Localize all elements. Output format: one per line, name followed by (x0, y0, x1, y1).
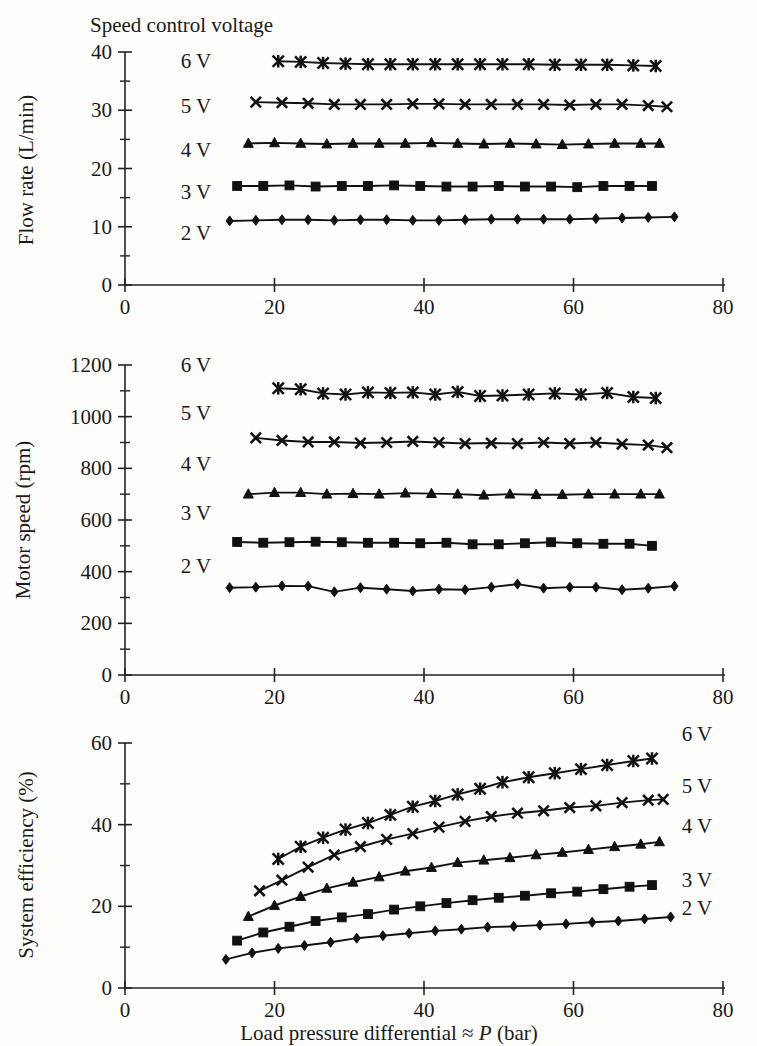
series-line (278, 759, 652, 859)
data-point-star (452, 788, 463, 801)
data-point-square (599, 885, 608, 894)
x-tick-label: 20 (264, 295, 285, 319)
y-tick-label: 30 (91, 98, 112, 122)
data-point-square (337, 913, 346, 922)
data-point-square (311, 537, 320, 546)
data-point-diamond (562, 919, 569, 929)
data-point-star (430, 795, 441, 808)
series-label-6-v: 6 V (181, 353, 212, 377)
data-point-diamond (488, 582, 495, 592)
data-point-square (573, 887, 582, 896)
series-line (278, 61, 655, 66)
data-point-diamond (409, 215, 416, 225)
series-3-v (233, 181, 657, 192)
data-point-square (494, 182, 503, 191)
system-efficiency-chart: 02040608002040606 V5 V4 V3 V2 VSystem ef… (0, 705, 757, 1046)
data-point-diamond (383, 215, 390, 225)
data-point-diamond (618, 585, 625, 595)
data-point-square (468, 182, 477, 191)
data-point-x (277, 875, 287, 885)
y-tick-label: 20 (91, 894, 112, 918)
y-tick-label: 0 (102, 273, 113, 297)
data-point-square (311, 917, 320, 926)
series-3-v (233, 881, 657, 945)
data-point-square (337, 182, 346, 191)
y-tick-label: 800 (81, 456, 113, 480)
data-point-diamond (405, 928, 412, 938)
y-tick-label: 20 (91, 157, 112, 181)
data-point-diamond (536, 920, 543, 930)
y-tick-label: 60 (91, 731, 112, 755)
data-point-diamond (301, 941, 308, 951)
data-point-diamond (566, 214, 573, 224)
panel-system-efficiency: 02040608002040606 V5 V4 V3 V2 VSystem ef… (0, 705, 757, 1046)
data-point-square (442, 899, 451, 908)
data-point-diamond (252, 582, 259, 592)
y-tick-label: 40 (91, 40, 112, 64)
data-point-diamond (488, 214, 495, 224)
motor-speed-chart: 0204060800200400600800100012006 V5 V4 V3… (0, 320, 757, 705)
data-point-square (494, 893, 503, 902)
data-point-square (416, 182, 425, 191)
flow-rate-chart: 0204060800102030406 V5 V4 V3 V2 VFlow ra… (0, 0, 757, 320)
data-point-square (625, 539, 634, 548)
series-label-5-v: 5 V (181, 401, 212, 425)
data-point-diamond (331, 215, 338, 225)
data-point-square (442, 538, 451, 547)
data-point-x (355, 842, 365, 852)
panel-motor-speed: 0204060800200400600800100012006 V5 V4 V3… (0, 320, 757, 705)
data-point-square (468, 896, 477, 905)
data-point-diamond (540, 583, 547, 593)
data-point-diamond (615, 916, 622, 926)
data-point-diamond (353, 933, 360, 943)
data-point-square (521, 182, 530, 191)
data-point-diamond (435, 215, 442, 225)
data-point-diamond (226, 583, 233, 593)
data-point-square (599, 539, 608, 548)
data-point-x (303, 862, 313, 872)
y-tick-label: 10 (91, 215, 112, 239)
series-3-v (233, 537, 657, 550)
data-point-square (573, 539, 582, 548)
series-line (230, 217, 675, 221)
data-point-diamond (278, 581, 285, 591)
series-line (256, 102, 667, 107)
x-tick-label: 60 (563, 998, 584, 1022)
data-point-diamond (645, 212, 652, 222)
data-point-diamond (305, 215, 312, 225)
series-label-2-v: 2 V (181, 221, 212, 245)
series-line (230, 584, 675, 592)
x-tick-label: 80 (713, 998, 734, 1022)
data-point-square (390, 181, 399, 190)
data-point-star (407, 800, 418, 813)
data-point-diamond (592, 214, 599, 224)
data-point-diamond (275, 943, 282, 953)
data-point-diamond (484, 922, 491, 932)
data-point-diamond (357, 215, 364, 225)
data-point-diamond (278, 215, 285, 225)
data-point-diamond (671, 212, 678, 222)
series-2-v (222, 912, 674, 964)
data-point-diamond (667, 912, 674, 922)
x-tick-label: 0 (120, 685, 131, 705)
data-point-diamond (383, 584, 390, 594)
data-point-square (285, 181, 294, 190)
data-point-diamond (462, 215, 469, 225)
data-point-square (648, 541, 657, 550)
data-point-square (442, 182, 451, 191)
data-point-x (254, 886, 264, 896)
data-point-diamond (222, 954, 229, 964)
series-5-v (251, 97, 673, 112)
y-tick-label: 600 (81, 508, 113, 532)
data-point-diamond (671, 581, 678, 591)
data-point-square (233, 538, 242, 547)
data-point-diamond (435, 584, 442, 594)
series-label-5-v: 5 V (682, 774, 713, 798)
data-point-square (416, 539, 425, 548)
data-point-diamond (514, 214, 521, 224)
x-tick-label: 20 (264, 998, 285, 1022)
data-point-square (285, 922, 294, 931)
series-6-v (273, 55, 662, 72)
data-point-square (625, 882, 634, 891)
y-tick-label: 1200 (70, 353, 112, 377)
